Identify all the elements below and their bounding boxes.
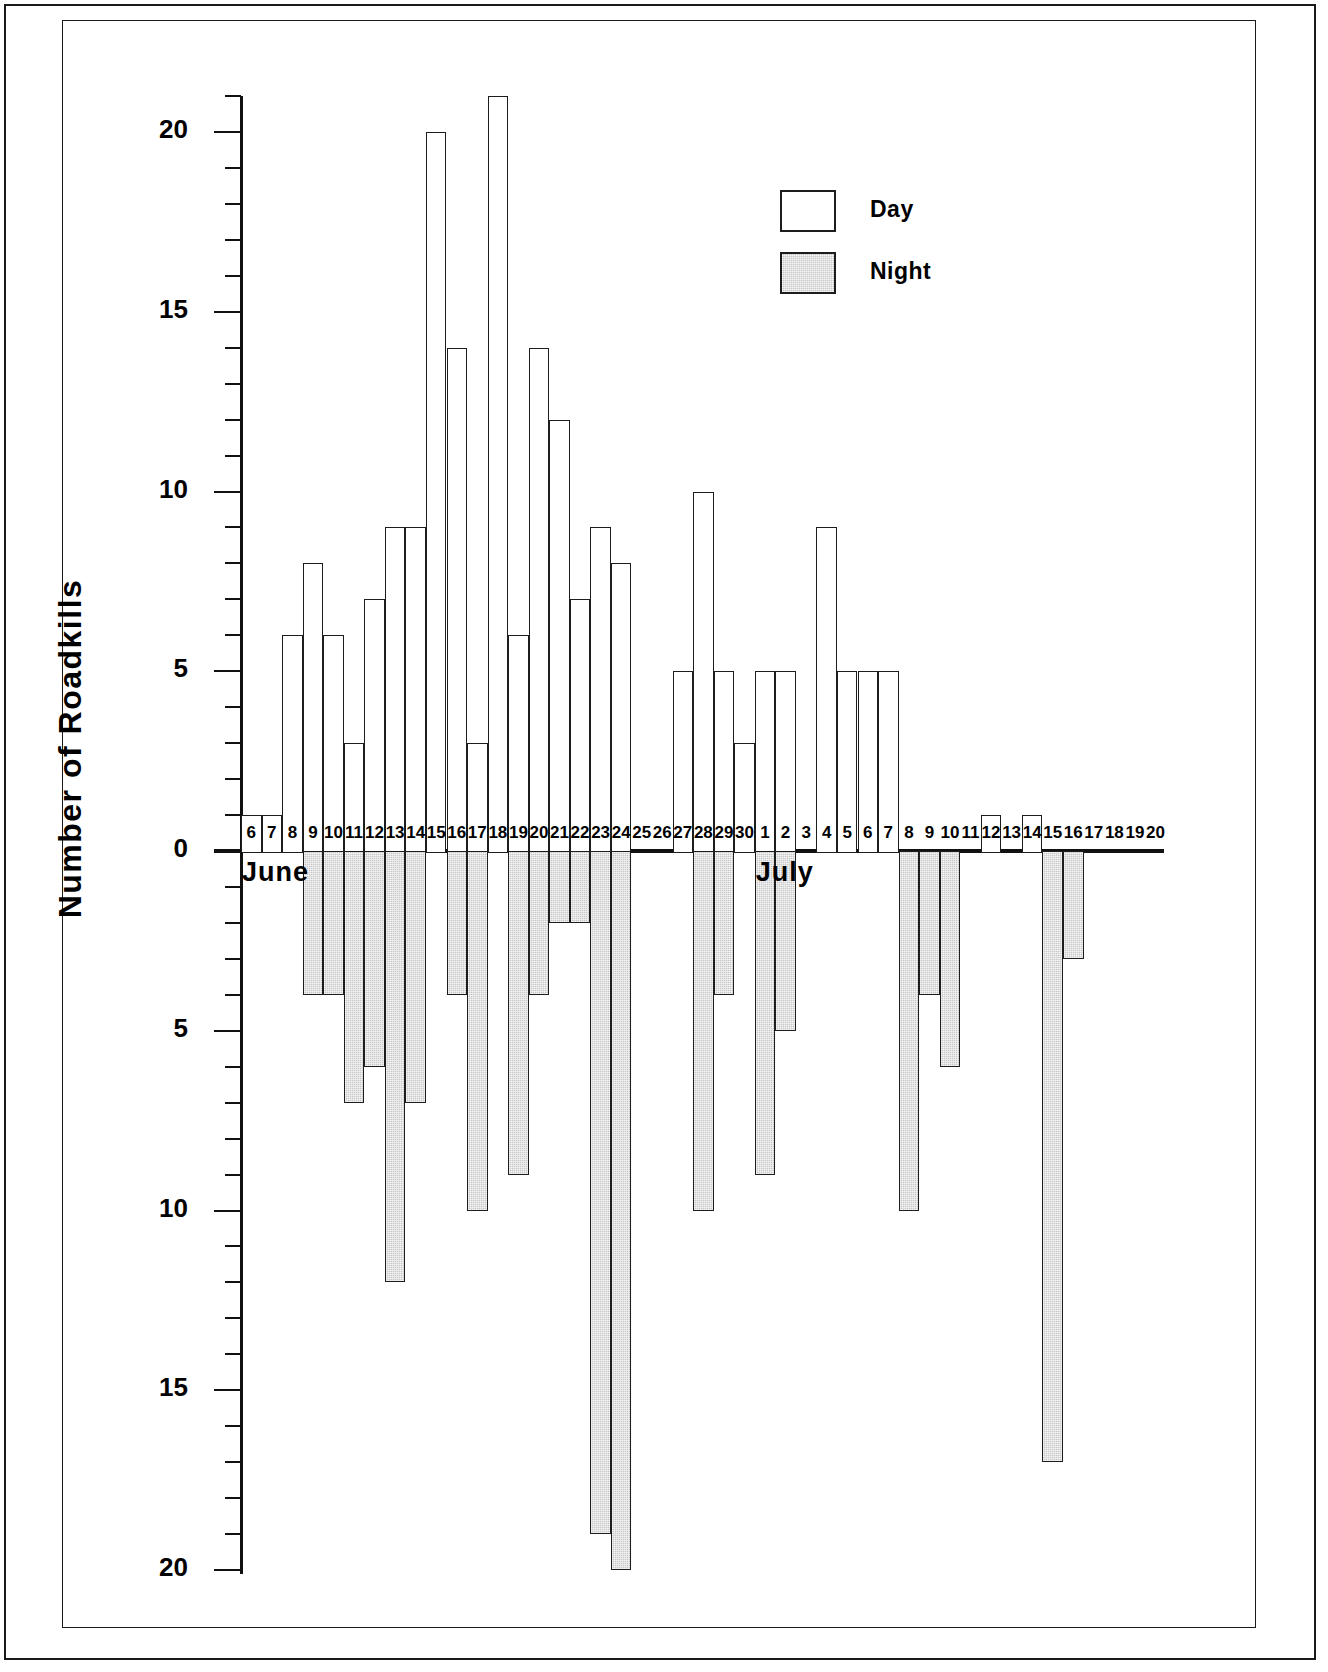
bar-day bbox=[529, 348, 550, 853]
day-swatch-icon bbox=[780, 190, 836, 232]
bar-night bbox=[344, 851, 365, 1103]
x-axis-day-label: 28 bbox=[693, 818, 714, 848]
x-axis-day-label: 19 bbox=[1125, 818, 1146, 848]
x-axis-day-label: 20 bbox=[1145, 818, 1166, 848]
bar-night bbox=[570, 851, 591, 923]
bar-night bbox=[508, 851, 529, 1175]
x-axis-day-label: 12 bbox=[981, 818, 1002, 848]
y-tick-label: 10 bbox=[118, 1193, 188, 1224]
y-tick-minor bbox=[225, 95, 241, 97]
bar-day bbox=[364, 599, 385, 853]
bar-night bbox=[1042, 851, 1063, 1462]
y-tick-minor bbox=[225, 742, 241, 744]
bar-night bbox=[405, 851, 426, 1103]
bar-night bbox=[549, 851, 570, 923]
x-axis-day-label: 9 bbox=[919, 818, 940, 848]
night-swatch-icon bbox=[780, 252, 836, 294]
y-tick-minor bbox=[225, 1174, 241, 1176]
bar-night bbox=[323, 851, 344, 995]
y-tick-minor bbox=[225, 814, 241, 816]
bar-night bbox=[590, 851, 611, 1534]
y-tick-minor bbox=[225, 778, 241, 780]
x-axis-day-label: 11 bbox=[960, 818, 981, 848]
x-axis-day-label: 15 bbox=[1042, 818, 1063, 848]
x-axis-day-label: 24 bbox=[611, 818, 632, 848]
y-tick-minor bbox=[225, 1425, 241, 1427]
x-axis-day-label: 20 bbox=[529, 818, 550, 848]
y-tick-minor bbox=[225, 1533, 241, 1535]
x-axis-day-label: 18 bbox=[1104, 818, 1125, 848]
x-axis-day-label: 17 bbox=[1084, 818, 1105, 848]
x-axis-day-label: 18 bbox=[488, 818, 509, 848]
x-axis-day-label: 6 bbox=[241, 818, 262, 848]
x-axis-day-label: 19 bbox=[508, 818, 529, 848]
x-axis-day-label: 6 bbox=[858, 818, 879, 848]
y-tick-minor bbox=[225, 526, 241, 528]
y-tick-minor bbox=[225, 994, 241, 996]
bar-night bbox=[940, 851, 961, 1067]
bar-day bbox=[570, 599, 591, 853]
y-tick-major bbox=[214, 1030, 241, 1032]
bar-day bbox=[816, 527, 837, 853]
bar-night bbox=[385, 851, 406, 1282]
bar-night bbox=[899, 851, 920, 1211]
bar-night bbox=[467, 851, 488, 1211]
x-axis-day-label: 14 bbox=[1022, 818, 1043, 848]
x-axis-day-label: 13 bbox=[385, 818, 406, 848]
x-axis-day-label: 12 bbox=[364, 818, 385, 848]
x-axis-day-label: 30 bbox=[734, 818, 755, 848]
x-axis-day-label: 14 bbox=[405, 818, 426, 848]
legend-label-night: Night bbox=[870, 258, 931, 285]
y-tick-label: 10 bbox=[118, 474, 188, 505]
x-axis-day-label: 13 bbox=[1001, 818, 1022, 848]
y-tick-label: 15 bbox=[118, 294, 188, 325]
x-axis-day-label: 2 bbox=[775, 818, 796, 848]
bar-night bbox=[611, 851, 632, 1570]
x-axis-day-label: 9 bbox=[303, 818, 324, 848]
x-axis-day-label: 7 bbox=[262, 818, 283, 848]
x-axis-day-label: 4 bbox=[816, 818, 837, 848]
legend-label-day: Day bbox=[870, 196, 914, 223]
bar-night bbox=[714, 851, 735, 995]
y-tick-minor bbox=[225, 1102, 241, 1104]
bar-day bbox=[549, 420, 570, 853]
y-tick-minor bbox=[225, 1066, 241, 1068]
y-tick-minor bbox=[225, 203, 241, 205]
y-tick-minor bbox=[225, 167, 241, 169]
month-label-july: July bbox=[756, 857, 814, 888]
bar-night bbox=[693, 851, 714, 1211]
x-axis-day-label: 21 bbox=[549, 818, 570, 848]
y-tick-minor bbox=[225, 275, 241, 277]
y-tick-minor bbox=[225, 634, 241, 636]
y-tick-minor bbox=[225, 1281, 241, 1283]
y-tick-label: 5 bbox=[118, 1013, 188, 1044]
x-axis-day-label: 10 bbox=[940, 818, 961, 848]
bar-day bbox=[385, 527, 406, 853]
x-axis-day-label: 16 bbox=[1063, 818, 1084, 848]
x-axis-day-label: 29 bbox=[714, 818, 735, 848]
y-tick-minor bbox=[225, 383, 241, 385]
y-tick-minor bbox=[225, 347, 241, 349]
x-axis-day-label: 25 bbox=[631, 818, 652, 848]
x-axis-day-label: 5 bbox=[837, 818, 858, 848]
y-tick-major bbox=[214, 670, 241, 672]
y-tick-minor bbox=[225, 958, 241, 960]
bar-day bbox=[693, 492, 714, 854]
x-axis-day-label: 15 bbox=[426, 818, 447, 848]
x-axis-day-label: 27 bbox=[673, 818, 694, 848]
x-axis-day-label: 11 bbox=[344, 818, 365, 848]
x-axis-day-label: 23 bbox=[590, 818, 611, 848]
y-tick-minor bbox=[225, 419, 241, 421]
bar-day bbox=[303, 563, 324, 853]
y-tick-major bbox=[214, 491, 241, 493]
x-axis-day-label: 17 bbox=[467, 818, 488, 848]
x-axis-day-label: 26 bbox=[652, 818, 673, 848]
x-axis-day-label: 16 bbox=[447, 818, 468, 848]
y-tick-minor bbox=[225, 886, 241, 888]
y-tick-major bbox=[214, 131, 241, 133]
bar-day bbox=[488, 96, 509, 853]
y-tick-minor bbox=[225, 1497, 241, 1499]
y-tick-minor bbox=[225, 239, 241, 241]
x-axis-day-label: 10 bbox=[323, 818, 344, 848]
y-axis-title: Number of Roadkills bbox=[52, 469, 89, 1029]
